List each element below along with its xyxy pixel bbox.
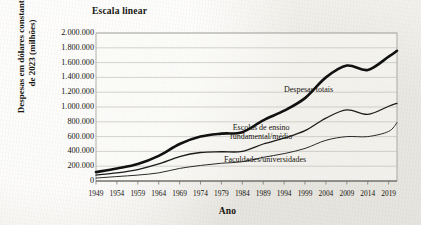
x-axis-title-text: Ano [219, 206, 237, 216]
series-label-total: Despesas totais [284, 85, 333, 94]
series-label-k12-line2: fundamental/médio [230, 132, 292, 141]
series-label-k12: Escolas de ensino fundamental/médio [230, 123, 292, 142]
chart-figure: Escala linear Despesas em dólares consta… [0, 0, 421, 225]
x-axis-title: Ano [0, 206, 421, 216]
plot-canvas [0, 0, 421, 225]
series-label-k12-line1: Escolas de ensino [233, 123, 290, 132]
series-label-college: Faculdades/universidades [224, 155, 306, 164]
